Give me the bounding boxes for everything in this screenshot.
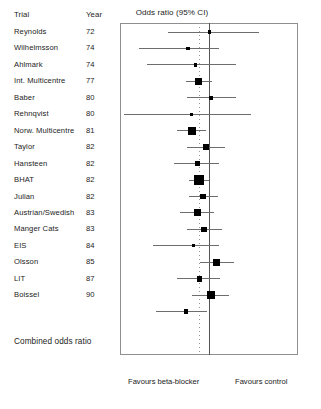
study-point-estimate-marker — [197, 276, 203, 282]
trial-year: 82 — [86, 159, 95, 168]
confidence-interval-line — [156, 311, 207, 312]
confidence-interval-line — [168, 32, 260, 33]
trial-year: 83 — [86, 208, 95, 217]
study-point-estimate-marker — [192, 244, 195, 247]
study-point-estimate-marker — [195, 161, 200, 166]
trial-name: Wilhelmsson — [14, 43, 58, 52]
forest-plot-figure: Trial Year Odds ratio (95% CI) Reynolds7… — [0, 0, 321, 409]
footer-favours-control: Favours control — [235, 377, 287, 386]
trial-year: 81 — [86, 126, 95, 135]
pooled-effect-line — [199, 23, 200, 355]
study-point-estimate-marker — [194, 63, 197, 66]
trial-year: 87 — [86, 274, 95, 283]
trial-year: 77 — [86, 76, 95, 85]
combined-odds-ratio-label: Combined odds ratio — [14, 337, 91, 346]
footer-favours-beta-blocker: Favours beta-blocker — [128, 377, 199, 386]
study-point-estimate-marker — [194, 209, 201, 216]
plot-title: Odds ratio (95% CI) — [136, 8, 209, 17]
trial-year: 84 — [86, 241, 95, 250]
study-point-estimate-marker — [194, 175, 204, 185]
trial-year: 74 — [86, 60, 95, 69]
trial-name: EIS — [14, 241, 27, 250]
trial-name: Taylor — [14, 142, 35, 151]
trial-name: Austrian/Swedish — [14, 208, 74, 217]
trial-year: 74 — [86, 43, 95, 52]
study-point-estimate-marker — [188, 127, 196, 135]
trial-name: Manger Cats — [14, 224, 59, 233]
trial-year: 72 — [86, 27, 95, 36]
trial-year: 82 — [86, 192, 95, 201]
trial-year: 82 — [86, 175, 95, 184]
study-point-estimate-marker — [203, 144, 209, 150]
trial-name: BHAT — [14, 175, 34, 184]
study-point-estimate-marker — [207, 291, 215, 299]
study-point-estimate-marker — [208, 30, 211, 33]
trial-name: Julian — [14, 192, 34, 201]
trial-year: 85 — [86, 257, 95, 266]
study-point-estimate-marker — [190, 113, 193, 116]
trial-name: Ahlmark — [14, 60, 43, 69]
trial-name: Norw. Multicentre — [14, 126, 74, 135]
summary-diamond — [0, 0, 40, 30]
trial-name: Rehnqvist — [14, 109, 49, 118]
study-point-estimate-marker — [209, 96, 214, 101]
trial-name: Hansteen — [14, 159, 47, 168]
trial-name: Boissel — [14, 290, 39, 299]
trial-name: Olsson — [14, 257, 38, 266]
trial-year: 80 — [86, 109, 95, 118]
confidence-interval-line — [147, 64, 236, 65]
trial-year: 82 — [86, 142, 95, 151]
trial-name: LIT — [14, 274, 25, 283]
study-point-estimate-marker — [195, 78, 202, 85]
trial-name: Int. Multicentre — [14, 76, 65, 85]
column-header-year: Year — [86, 10, 102, 19]
study-point-estimate-marker — [184, 309, 189, 314]
study-point-estimate-marker — [200, 194, 206, 200]
confidence-interval-line — [139, 48, 220, 49]
confidence-interval-line — [124, 114, 251, 115]
trial-year: 80 — [86, 93, 95, 102]
study-point-estimate-marker — [201, 227, 207, 233]
study-point-estimate-marker — [186, 47, 189, 50]
trial-year: 90 — [86, 290, 95, 299]
confidence-interval-line — [153, 245, 220, 246]
trial-name: Baber — [14, 93, 35, 102]
trial-year: 83 — [86, 224, 95, 233]
study-point-estimate-marker — [213, 259, 220, 266]
no-effect-reference-line — [209, 23, 210, 355]
